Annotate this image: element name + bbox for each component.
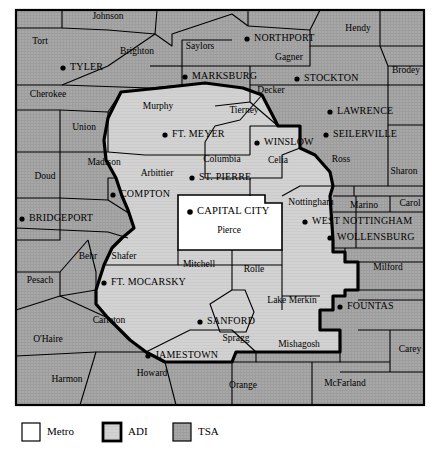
city-marker-ft-mocarsky[interactable]: FT. MOCARSKY <box>101 276 186 287</box>
city-marker-northport[interactable]: NORTHPORT <box>244 32 314 43</box>
county-label: Carol <box>399 198 420 208</box>
city-label: JAMESTOWN <box>155 349 218 360</box>
county-label: Brodey <box>392 65 420 75</box>
city-label: FT. MEYER <box>172 128 225 139</box>
county-label: Madison <box>87 157 121 167</box>
city-dot-icon <box>302 219 307 224</box>
county-label: Harmon <box>51 374 82 384</box>
county-label: Lake Merkin <box>267 295 317 305</box>
city-dot-icon <box>327 109 332 114</box>
county-label: Tierney <box>229 105 258 115</box>
legend-swatch-adi <box>103 423 121 441</box>
county-label: Spragg <box>223 333 250 343</box>
county-label: Howard <box>137 368 168 378</box>
legend-label-adi: ADI <box>128 425 148 437</box>
county-label: Milford <box>373 262 403 272</box>
city-label: BRIDGEPORT <box>29 212 93 223</box>
city-marker-seilerville[interactable]: SEILERVILLE <box>323 128 397 139</box>
city-dot-icon <box>197 319 202 324</box>
county-label: Hendy <box>345 23 371 33</box>
city-label: CAPITAL CITY <box>197 205 270 216</box>
city-dot-icon <box>187 209 193 215</box>
metro-region-layer <box>178 195 282 250</box>
city-label: COMPTON <box>120 188 170 199</box>
city-label: SANFORD <box>207 315 255 326</box>
county-label: Arbittier <box>141 168 175 178</box>
legend-label-tsa: TSA <box>198 425 219 437</box>
county-label: Brighton <box>120 46 154 56</box>
city-dot-icon <box>162 132 167 137</box>
city-marker-wollensburg[interactable]: WOLLENSBURG <box>327 231 414 242</box>
county-label: Orange <box>229 380 257 390</box>
city-dot-icon <box>60 65 65 70</box>
city-dot-icon <box>254 140 259 145</box>
city-marker-compton[interactable]: COMPTON <box>110 188 170 199</box>
city-dot-icon <box>294 76 299 81</box>
city-label: WEST NOTTINGHAM <box>312 215 412 226</box>
city-dot-icon <box>244 36 249 41</box>
county-label: Decker <box>257 85 285 95</box>
city-marker-lawrence[interactable]: LAWRENCE <box>327 105 393 116</box>
city-dot-icon <box>110 192 115 197</box>
legend-label-metro: Metro <box>47 425 74 437</box>
city-label: MARKSBURG <box>192 70 257 81</box>
county-label: Ross <box>332 154 351 164</box>
city-marker-stockton[interactable]: STOCKTON <box>294 72 358 83</box>
county-label: McFarland <box>324 378 366 388</box>
city-dot-icon <box>19 216 24 221</box>
county-label: Cherokee <box>30 89 66 99</box>
county-label: Carey <box>399 344 422 354</box>
county-label: Pierce <box>217 225 241 235</box>
county-label: Nottingham <box>288 197 334 207</box>
county-label: Doud <box>34 171 55 181</box>
city-marker-west-nottingham[interactable]: WEST NOTTINGHAM <box>302 215 412 226</box>
city-label: STOCKTON <box>304 72 359 83</box>
map-container: Johnson Tort Brighton Saylors Gagner Hen… <box>0 0 440 453</box>
legend-swatch-tsa <box>173 423 191 441</box>
county-label: Johnson <box>92 11 123 21</box>
city-dot-icon <box>323 132 328 137</box>
county-label: Carleton <box>93 315 126 325</box>
county-label: Celia <box>268 155 289 165</box>
county-label: Union <box>72 122 96 132</box>
city-dot-icon <box>327 235 332 240</box>
city-dot-icon <box>145 353 150 358</box>
county-label: Behr <box>79 251 98 261</box>
city-label: SEILERVILLE <box>333 128 397 139</box>
city-label: FT. MOCARSKY <box>111 276 186 287</box>
city-label: TYLER <box>70 61 103 72</box>
city-label: LAWRENCE <box>337 105 393 116</box>
county-label: Sharon <box>391 166 418 176</box>
county-label: Marino <box>350 200 378 210</box>
county-label: Murphy <box>143 101 174 111</box>
county-label: Columbia <box>203 154 241 164</box>
city-marker-jamestown[interactable]: JAMESTOWN <box>145 349 218 360</box>
coverage-map-svg: Johnson Tort Brighton Saylors Gagner Hen… <box>0 0 440 453</box>
city-dot-icon <box>189 175 194 180</box>
county-label: Tort <box>32 36 48 46</box>
county-label: Pesach <box>27 275 54 285</box>
city-dot-icon <box>337 304 342 309</box>
county-label: Shafer <box>112 251 138 261</box>
city-label: ST. PIERRE <box>199 171 251 182</box>
city-marker-bridgeport[interactable]: BRIDGEPORT <box>19 212 93 223</box>
city-label: FOUNTAS <box>347 300 394 311</box>
county-label: Rolle <box>244 264 265 274</box>
legend-swatch-metro <box>22 423 40 441</box>
city-marker-ft-meyer[interactable]: FT. MEYER <box>162 128 224 139</box>
city-marker-sanford[interactable]: SANFORD <box>197 315 255 326</box>
county-label: Mishagosh <box>278 339 320 349</box>
city-label: NORTHPORT <box>254 32 315 43</box>
county-label: Gagner <box>275 52 304 62</box>
county-label: O'Haire <box>33 334 63 344</box>
city-marker-marksburg[interactable]: MARKSBURG <box>182 70 257 81</box>
city-dot-icon <box>182 74 187 79</box>
city-marker-capital-city[interactable]: CAPITAL CITY <box>187 205 270 216</box>
city-marker-winslow[interactable]: WINSLOW <box>254 136 314 147</box>
county-label: Mitchell <box>183 259 216 269</box>
city-label: WINSLOW <box>264 136 314 147</box>
city-label: WOLLENSBURG <box>337 231 415 242</box>
city-marker-st-pierre[interactable]: ST. PIERRE <box>189 171 251 182</box>
city-dot-icon <box>101 280 106 285</box>
county-label: Saylors <box>186 41 215 51</box>
